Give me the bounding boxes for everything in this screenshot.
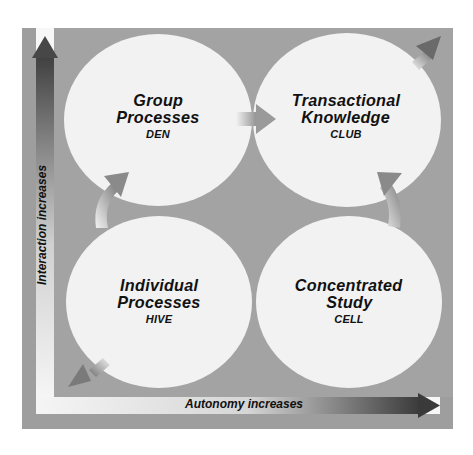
quadrant-hive: Individual Processes HIVE bbox=[69, 277, 249, 325]
quadrant-club-title-line1: Transactional bbox=[292, 92, 400, 109]
quadrant-hive-code: HIVE bbox=[146, 314, 172, 325]
quadrant-hive-title-line1: Individual bbox=[120, 277, 198, 294]
quadrant-cell-title-line2: Study bbox=[326, 294, 372, 311]
quadrant-hive-title-line2: Processes bbox=[117, 294, 200, 311]
quadrant-cell: Concentrated Study CELL bbox=[259, 277, 439, 325]
quadrant-diagram bbox=[0, 0, 473, 455]
quadrant-cell-title-line1: Concentrated bbox=[295, 277, 403, 294]
quadrant-den-title-line2: Processes bbox=[116, 109, 199, 126]
quadrant-cell-code: CELL bbox=[334, 314, 364, 325]
y-axis-label: Interaction increases bbox=[36, 165, 48, 285]
quadrant-den-code: DEN bbox=[146, 129, 170, 140]
quadrant-club: Transactional Knowledge CLUB bbox=[256, 92, 436, 140]
right-frame-strip bbox=[440, 397, 453, 429]
quadrant-club-code: CLUB bbox=[330, 129, 361, 140]
quadrant-club-title-line2: Knowledge bbox=[302, 109, 391, 126]
x-axis-label: Autonomy increases bbox=[185, 398, 303, 410]
quadrant-den-title-line1: Group bbox=[133, 92, 183, 109]
quadrant-den: Group Processes DEN bbox=[68, 92, 248, 140]
